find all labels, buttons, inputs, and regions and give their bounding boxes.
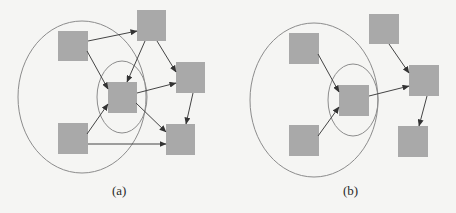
bottom-right-node	[166, 124, 195, 155]
right-node	[176, 62, 205, 93]
top-node	[369, 14, 399, 44]
panel-a	[18, 10, 205, 173]
bottom-right-node	[398, 126, 428, 157]
edge-arrow-b3-b6	[419, 96, 427, 126]
edge-arrow-a4-a3	[137, 83, 176, 93]
edge-arrow-a2-a3	[157, 41, 176, 72]
right-node	[409, 65, 439, 96]
edge-arrow-a3-a6	[186, 93, 193, 124]
edge-arrow-b5-b4	[318, 107, 339, 136]
panel-b	[250, 14, 439, 177]
edge-arrow-b4-b3	[369, 86, 409, 96]
center-node	[108, 82, 137, 113]
top-node	[137, 10, 166, 41]
graph-diagram	[0, 0, 456, 213]
edge-arrow-a1-a2	[88, 31, 137, 41]
bottom-left-node	[289, 125, 319, 156]
bottom-left-node	[58, 123, 88, 154]
top-left-node	[58, 31, 88, 61]
center-node	[339, 85, 369, 116]
top-left-node	[289, 33, 319, 64]
edge-arrow-b2-b3	[389, 44, 409, 73]
edge-arrow-a5-a4	[87, 104, 108, 134]
panel-b-label: (b)	[343, 184, 358, 197]
diagram-figure: (a) (b)	[0, 0, 456, 213]
panel-a-label: (a)	[112, 184, 126, 197]
